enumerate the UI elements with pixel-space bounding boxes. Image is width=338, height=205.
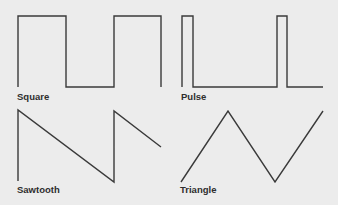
triangle-label: Triangle (180, 184, 216, 195)
sawtooth-wave (18, 110, 161, 182)
waveforms-diagram (0, 0, 338, 205)
square-wave (18, 16, 161, 87)
square-label: Square (17, 91, 49, 102)
pulse-wave (182, 16, 323, 87)
pulse-label: Pulse (181, 91, 206, 102)
sawtooth-label: Sawtooth (17, 184, 60, 195)
triangle-wave (181, 111, 323, 182)
